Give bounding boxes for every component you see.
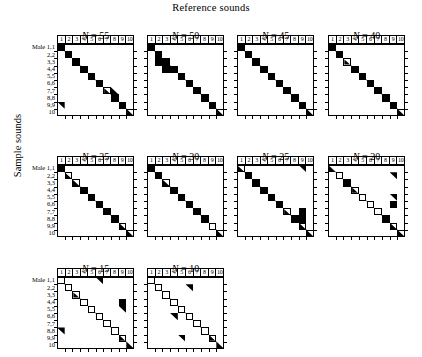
x-tick xyxy=(252,116,253,119)
x-tick xyxy=(374,116,375,119)
matrix-cell-r4-c4 xyxy=(260,187,268,194)
column-header-5: 5 xyxy=(267,156,275,165)
y-tick xyxy=(144,342,147,343)
column-header-8: 8 xyxy=(110,156,118,165)
y-tick-right xyxy=(134,335,137,336)
matrix-cell-r6-c6 xyxy=(276,80,284,87)
matrix-cell-r4-c9 xyxy=(119,299,127,306)
y-tick-right xyxy=(224,51,227,52)
matrix-cell-r1-c1 xyxy=(57,44,65,51)
matrix-cell-r2-c2 xyxy=(155,51,163,58)
y-tick xyxy=(144,194,147,195)
row-label-10: 10 xyxy=(49,342,56,349)
y-tick-right xyxy=(224,194,227,195)
x-tick xyxy=(162,116,163,119)
y-tick-right xyxy=(314,187,317,188)
x-tick xyxy=(216,116,217,119)
matrix-cell-r9-c9 xyxy=(209,102,217,109)
x-tick xyxy=(126,349,127,352)
matrix-cell-r1-c1 xyxy=(237,165,245,172)
y-tick xyxy=(325,172,328,173)
x-tick xyxy=(103,237,104,240)
y-tick-right xyxy=(314,58,317,59)
y-tick-right xyxy=(405,51,408,52)
column-header-10: 10 xyxy=(125,268,134,277)
y-tick xyxy=(144,102,147,103)
y-tick-right xyxy=(134,201,137,202)
matrix-cell-r2-c2 xyxy=(65,51,73,58)
x-tick xyxy=(65,237,66,240)
matrix-cell-r6-c6 xyxy=(96,313,104,320)
column-header-9: 9 xyxy=(208,268,216,277)
x-tick xyxy=(72,349,73,352)
x-tick xyxy=(343,237,344,240)
matrix-cell-r2-c2 xyxy=(155,284,163,291)
y-tick xyxy=(144,87,147,88)
y-tick xyxy=(144,320,147,321)
row-label-1-1: Male 1,1 xyxy=(32,277,55,284)
column-header-4: 4 xyxy=(170,156,178,165)
row-label-6-6: 6,6 xyxy=(47,201,55,208)
x-tick xyxy=(96,116,97,119)
y-tick-right xyxy=(134,194,137,195)
column-header-3: 3 xyxy=(343,156,351,165)
y-tick-right xyxy=(405,80,408,81)
matrix-cell-r6-c6 xyxy=(367,201,375,208)
matrix-cell-r6-c6 xyxy=(96,201,104,208)
y-tick xyxy=(144,335,147,336)
x-tick xyxy=(80,237,81,240)
y-tick-right xyxy=(134,94,137,95)
column-header-5: 5 xyxy=(177,268,185,277)
x-tick xyxy=(186,237,187,240)
y-tick-right xyxy=(224,58,227,59)
y-tick xyxy=(144,80,147,81)
y-tick-right xyxy=(134,172,137,173)
y-tick-right xyxy=(314,179,317,180)
column-header-4: 4 xyxy=(260,156,268,165)
y-tick-right xyxy=(224,102,227,103)
y-tick xyxy=(234,102,237,103)
matrix-cell-r3-c3 xyxy=(343,58,351,65)
x-tick xyxy=(201,237,202,240)
matrix-cell-r5-c5 xyxy=(359,194,367,201)
panel-n-30: N = 3012345678910 xyxy=(147,165,224,237)
x-tick xyxy=(80,349,81,352)
x-tick xyxy=(367,116,368,119)
panel-n-45: N = 4512345678910 xyxy=(237,44,314,116)
x-tick xyxy=(359,116,360,119)
y-tick-right xyxy=(134,313,137,314)
y-tick-right xyxy=(405,230,408,231)
column-header-10: 10 xyxy=(305,156,314,165)
y-tick xyxy=(325,230,328,231)
x-tick xyxy=(343,116,344,119)
matrix-cell-r1-c1 xyxy=(328,44,336,51)
y-tick-right xyxy=(405,58,408,59)
y-tick-right xyxy=(134,66,137,67)
x-tick xyxy=(209,237,210,240)
row-label-10: 10 xyxy=(49,109,56,116)
y-tick xyxy=(325,194,328,195)
panel-n-20: N = 2012345678910 xyxy=(328,165,405,237)
y-tick-right xyxy=(224,179,227,180)
y-tick xyxy=(144,215,147,216)
panel-n-25: N = 2512345678910 xyxy=(237,165,314,237)
column-header-2: 2 xyxy=(336,156,344,165)
column-header-2: 2 xyxy=(65,156,73,165)
column-header-row: 12345678910 xyxy=(237,156,314,165)
x-tick xyxy=(88,116,89,119)
column-header-6: 6 xyxy=(95,35,103,44)
column-header-9: 9 xyxy=(208,156,216,165)
x-tick xyxy=(336,237,337,240)
column-header-5: 5 xyxy=(177,156,185,165)
x-tick xyxy=(193,116,194,119)
y-tick xyxy=(144,172,147,173)
matrix-cell-r4-c4 xyxy=(80,66,88,73)
y-tick xyxy=(234,179,237,180)
column-header-5: 5 xyxy=(358,156,366,165)
x-tick xyxy=(252,237,253,240)
y-tick-right xyxy=(134,223,137,224)
left-axis-title: Sample sounds xyxy=(12,91,23,201)
matrix-cell-r8-c8 xyxy=(201,215,209,222)
y-tick xyxy=(144,327,147,328)
top-axis-title: Reference sounds xyxy=(0,2,422,13)
